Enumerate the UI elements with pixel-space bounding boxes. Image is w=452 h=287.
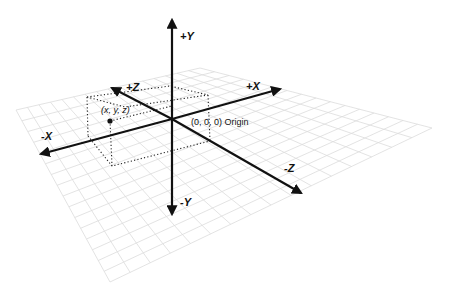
ground-grid xyxy=(16,68,432,282)
pos-z-label: +Z xyxy=(126,81,140,93)
origin-label: (0, 0, 0) Origin xyxy=(191,117,249,127)
point-marker xyxy=(107,118,112,123)
pos-x-label: +X xyxy=(246,80,260,92)
pos-y-label: +Y xyxy=(180,30,195,42)
neg-y-label: -Y xyxy=(180,196,193,208)
neg-x-label: -X xyxy=(41,130,53,142)
point-label: (x, y, z) xyxy=(101,105,130,115)
neg-z-axis xyxy=(172,119,301,193)
coordinate-diagram: +Y -Y +X -X +Z -Z (0, 0, 0) Origin (x, y… xyxy=(0,0,452,287)
neg-z-label: -Z xyxy=(284,162,296,174)
